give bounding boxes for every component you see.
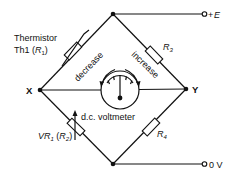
- junction-top: [111, 12, 116, 17]
- vr1-arrow-icon: [73, 110, 78, 116]
- voltmeter-label: d.c. voltmeter: [81, 112, 135, 122]
- wheatstone-bridge-diagram: + E 0 V X Y Thermistor Th1 (R1) R3 VR1 (…: [0, 0, 242, 181]
- dc-voltmeter: [100, 70, 141, 110]
- supply-e-label: E: [214, 10, 221, 20]
- vr1-label: VR1 (R2): [38, 131, 72, 142]
- voltmeter-tick: [114, 77, 115, 81]
- wire-meter-to-y: [139, 89, 186, 90]
- supply-terminal: [202, 12, 207, 17]
- junction-y: [184, 87, 189, 92]
- junction-bottom: [111, 162, 116, 167]
- node-y-label: Y: [192, 84, 199, 95]
- ground-label: 0 V: [209, 160, 223, 170]
- node-x-label: X: [26, 85, 33, 96]
- thermistor-label: Thermistor: [14, 33, 57, 43]
- supply-plus-label: +: [208, 10, 213, 20]
- r4-label: R4: [157, 129, 168, 140]
- voltmeter-pivot: [118, 96, 123, 101]
- thermistor-th1: [62, 30, 89, 66]
- ground-terminal: [202, 162, 207, 167]
- junction-x: [38, 88, 43, 93]
- voltmeter-tick: [126, 77, 127, 81]
- thermistor-id-label: Th1 (R1): [14, 45, 48, 56]
- decrease-label: decrease: [72, 50, 105, 84]
- r3-label: R3: [163, 42, 174, 53]
